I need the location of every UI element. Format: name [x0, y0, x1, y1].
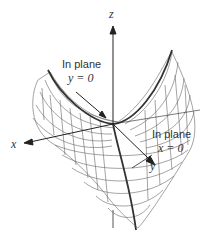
y-axis-label: y [150, 160, 155, 172]
x-axis-label: x [11, 138, 16, 150]
annotation-plane-y0-line1: In plane [62, 58, 101, 70]
annotation-plane-x0-line2: x = 0 [158, 142, 183, 154]
saddle-surface-diagram [0, 0, 215, 246]
annotation-plane-y0-line2: y = 0 [68, 72, 93, 84]
z-axis-label: z [109, 8, 114, 20]
axes [24, 26, 200, 228]
annotation-plane-x0-line1: In plane [152, 128, 191, 140]
surface-mesh [33, 52, 195, 228]
